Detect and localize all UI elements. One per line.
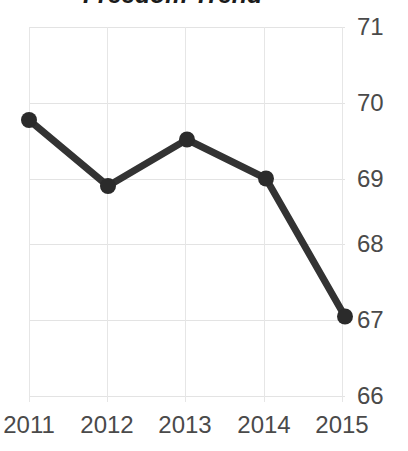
y-tick-label: 69 (357, 167, 405, 191)
y-tick-label: 66 (357, 384, 405, 408)
plot-area (29, 27, 345, 402)
data-point-marker (179, 132, 195, 148)
data-series-freedom-score (29, 27, 345, 402)
x-tick-label: 2013 (146, 413, 224, 437)
x-tick-label: 2012 (68, 413, 146, 437)
series-markers (21, 112, 353, 325)
y-tick-label: 71 (357, 15, 405, 39)
data-point-marker (21, 112, 37, 128)
y-tick-label: 67 (357, 308, 405, 332)
x-tick-label: 2011 (0, 413, 68, 437)
chart-title: Freedom Trend (0, 0, 345, 9)
x-tick-label: 2015 (303, 413, 381, 437)
chart-container: Freedom Trend 71 70 69 68 67 66 2011 201… (0, 0, 408, 451)
data-point-marker (337, 309, 353, 325)
data-point-marker (258, 171, 274, 187)
y-tick-label: 68 (357, 232, 405, 256)
y-tick-label: 70 (357, 91, 405, 115)
series-line (29, 120, 345, 317)
x-tick-label: 2014 (225, 413, 303, 437)
data-point-marker (100, 178, 116, 194)
